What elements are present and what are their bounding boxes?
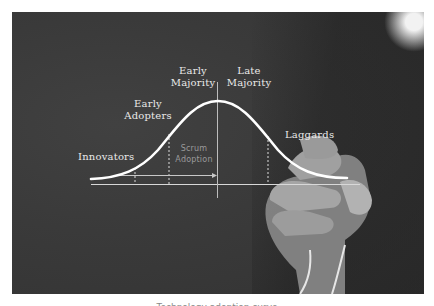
label-late-majority-line1: Late xyxy=(226,65,272,76)
label-laggards: Laggards xyxy=(285,129,334,140)
label-early-adopters-line1: Early xyxy=(124,98,172,109)
hand-illustration xyxy=(265,136,372,294)
label-innovators: Innovators xyxy=(78,151,134,162)
adoption-diagram xyxy=(0,0,434,306)
label-early-majority-line2: Majority xyxy=(170,77,216,88)
label-scrum-line1: Scrum xyxy=(172,144,216,154)
label-late-majority-line2: Majority xyxy=(226,77,272,88)
label-early-majority-line1: Early xyxy=(170,65,216,76)
label-early-adopters-line2: Adopters xyxy=(124,110,172,121)
caption: Technology adoption curve xyxy=(40,301,394,306)
arrow-head-icon xyxy=(212,173,217,178)
label-scrum-line2: Adoption xyxy=(172,155,216,165)
